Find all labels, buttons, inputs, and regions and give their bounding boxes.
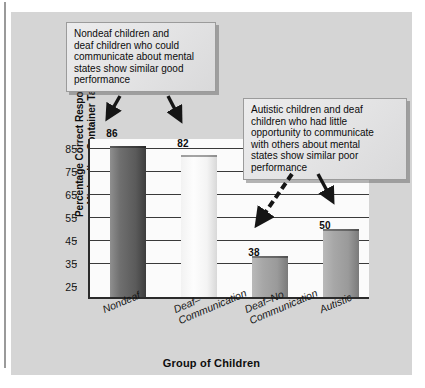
y-tick-label-45: 45 <box>51 235 77 247</box>
bar-deaf-communication[interactable] <box>181 155 217 297</box>
figure-root: Percentage Correct Responses, Misleading… <box>0 0 425 388</box>
y-tick-label-25: 25 <box>51 281 77 293</box>
y-tick-label-75: 75 <box>51 166 77 178</box>
figure-panel: Percentage Correct Responses, Misleading… <box>11 12 412 375</box>
callout-good-performance-line-3: communicate about mental <box>74 51 209 63</box>
callout-poor-performance-line-2: children who had little <box>251 116 400 128</box>
callout-good-performance-line-2: deaf children who could <box>74 40 209 52</box>
y-tick-mark-45 <box>72 240 77 241</box>
callout-poor-performance: Autistic children and deaf children who … <box>243 98 407 180</box>
callout-poor-performance-line-3: opportunity to communicate <box>251 127 400 139</box>
x-axis-title: Group of Children <box>11 357 412 369</box>
callout-poor-performance-line-4: with others about mental <box>251 139 400 151</box>
callout-good-performance-line-5: performance <box>74 74 209 86</box>
callout-poor-performance-line-6: performance <box>251 162 400 174</box>
y-tick-mark-55 <box>72 217 77 218</box>
left-margin-rule <box>4 2 6 368</box>
y-tick-mark-85 <box>72 148 77 149</box>
y-tick-mark-25 <box>72 286 77 287</box>
value-label-deaf-no-communication: 38 <box>236 247 272 258</box>
callout-good-performance-line-4: states show similar good <box>74 63 209 75</box>
y-tick-mark-75 <box>72 171 77 172</box>
callout-good-performance: Nondeaf children and deaf children who c… <box>66 22 216 92</box>
y-tick-label-65: 65 <box>51 189 77 201</box>
value-label-nondeaf: 86 <box>94 128 130 139</box>
y-tick-label-55: 55 <box>51 212 77 224</box>
y-tick-mark-35 <box>72 263 77 264</box>
bar-autistic[interactable] <box>323 229 359 297</box>
y-tick-mark-65 <box>72 194 77 195</box>
y-tick-label-85: 85 <box>51 143 77 155</box>
value-label-autistic: 50 <box>307 220 343 231</box>
value-label-deaf-communication: 82 <box>165 138 201 149</box>
callout-poor-performance-line-5: states show similar poor <box>251 150 400 162</box>
y-tick-label-35: 35 <box>51 258 77 270</box>
callout-poor-performance-line-1: Autistic children and deaf <box>251 104 400 116</box>
callout-good-performance-line-1: Nondeaf children and <box>74 28 209 40</box>
bar-nondeaf[interactable] <box>110 146 146 297</box>
